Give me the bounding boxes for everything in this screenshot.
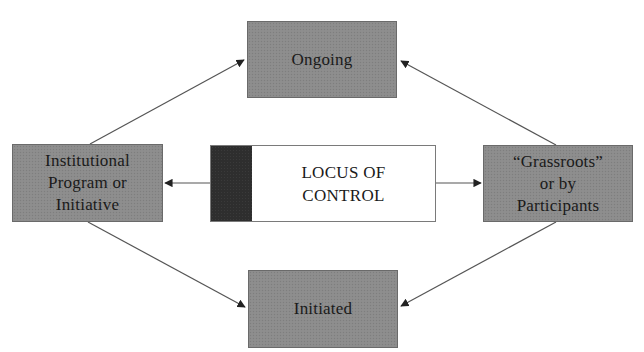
center-line-2: CONTROL: [301, 184, 385, 207]
node-institutional-program: Institutional Program or Initiative: [12, 144, 163, 222]
node-initiated-label: Initiated: [294, 298, 352, 320]
node-right-line-3: Participants: [513, 195, 603, 217]
arrow-right-to-initiated: [401, 222, 556, 306]
arrow-left-to-ongoing: [90, 60, 244, 144]
node-initiated: Initiated: [248, 270, 398, 348]
node-right-line-1: “Grassroots”: [513, 151, 603, 173]
node-left-line-3: Initiative: [45, 194, 130, 216]
node-ongoing-label: Ongoing: [292, 49, 353, 71]
node-left-line-2: Program or: [45, 172, 130, 194]
locus-dark-strip: [211, 146, 252, 221]
arrow-right-to-ongoing: [401, 61, 556, 145]
node-grassroots: “Grassroots” or by Participants: [483, 145, 633, 222]
arrow-left-to-initiated: [88, 222, 245, 307]
node-ongoing: Ongoing: [247, 21, 397, 98]
locus-of-control-box: LOCUS OF CONTROL: [210, 145, 436, 222]
node-left-line-1: Institutional: [45, 150, 130, 172]
locus-of-control-diagram: Ongoing Institutional Program or Initiat…: [0, 0, 644, 352]
center-line-1: LOCUS OF: [301, 161, 385, 184]
node-right-line-2: or by: [513, 173, 603, 195]
